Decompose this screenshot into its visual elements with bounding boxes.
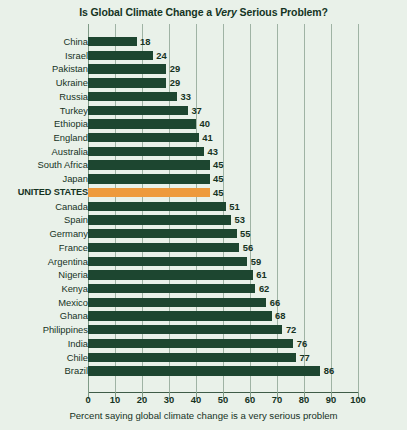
bar-category-label: Canada (0, 200, 88, 214)
bar[interactable] (88, 325, 282, 334)
bar-value-label: 43 (208, 145, 218, 159)
bar-category-label: Ukraine (0, 76, 88, 90)
x-tick-label: 70 (272, 394, 282, 405)
bar-category-label: India (0, 337, 88, 351)
bar-value-label: 77 (299, 351, 309, 365)
bar-row[interactable]: France56 (0, 241, 407, 255)
bar[interactable] (88, 229, 237, 238)
bar-category-label: China (0, 35, 88, 49)
bar[interactable] (88, 37, 137, 46)
chart-title-emphasis: Very (215, 6, 237, 18)
bar-value-label: 66 (270, 296, 280, 310)
chart-title-after: Serious Problem? (237, 6, 328, 18)
bar-row[interactable]: Mexico66 (0, 296, 407, 310)
bar[interactable] (88, 78, 166, 87)
bar-row[interactable]: Ethiopia40 (0, 117, 407, 131)
bar[interactable] (88, 119, 196, 128)
bar-category-label: South Africa (0, 158, 88, 172)
bar-category-label: Israel (0, 49, 88, 63)
bar[interactable] (88, 311, 272, 320)
bar[interactable] (88, 64, 166, 73)
bar-category-label: Pakistan (0, 62, 88, 76)
bar[interactable] (88, 92, 177, 101)
bar-category-label: Australia (0, 145, 88, 159)
bar[interactable] (88, 188, 210, 197)
bar[interactable] (88, 366, 320, 375)
bar-value-label: 33 (181, 90, 191, 104)
x-tick-label: 100 (350, 394, 366, 405)
bar-row[interactable]: Spain53 (0, 213, 407, 227)
bar-value-label: 45 (213, 186, 223, 200)
bar[interactable] (88, 174, 210, 183)
bar-row-highlighted[interactable]: UNITED STATES45 (0, 186, 407, 200)
bar[interactable] (88, 270, 253, 279)
bar-row[interactable]: Australia43 (0, 145, 407, 159)
bar-row[interactable]: Nigeria61 (0, 268, 407, 282)
bar-value-label: 45 (213, 158, 223, 172)
bar-category-label: Philippines (0, 323, 88, 337)
x-tick-label: 30 (164, 394, 174, 405)
bar-value-label: 40 (200, 117, 210, 131)
bar[interactable] (88, 257, 247, 266)
bar[interactable] (88, 160, 210, 169)
bar-row[interactable]: Israel24 (0, 49, 407, 63)
bar[interactable] (88, 106, 188, 115)
bar-row[interactable]: China18 (0, 35, 407, 49)
bar-value-label: 24 (156, 49, 166, 63)
bar-value-label: 59 (251, 255, 261, 269)
x-axis-label: Percent saying global climate change is … (0, 410, 407, 421)
bar-category-label: Russia (0, 90, 88, 104)
bar[interactable] (88, 243, 239, 252)
bar-row[interactable]: India76 (0, 337, 407, 351)
bar[interactable] (88, 339, 293, 348)
x-tick-label: 80 (299, 394, 309, 405)
bar-value-label: 18 (140, 35, 150, 49)
bar-value-label: 56 (243, 241, 253, 255)
bar-value-label: 86 (324, 364, 334, 378)
bar[interactable] (88, 298, 266, 307)
bar-category-label: Nigeria (0, 268, 88, 282)
bar-row[interactable]: Chile77 (0, 351, 407, 365)
bar-category-label: Ethiopia (0, 117, 88, 131)
bar-category-label: Turkey (0, 104, 88, 118)
x-tick-label: 0 (85, 394, 90, 405)
bar[interactable] (88, 353, 296, 362)
bar[interactable] (88, 284, 255, 293)
x-tick-label: 90 (326, 394, 336, 405)
bar-row[interactable]: England41 (0, 131, 407, 145)
bar-row[interactable]: Turkey37 (0, 104, 407, 118)
bar-row[interactable]: South Africa45 (0, 158, 407, 172)
bar-value-label: 76 (297, 337, 307, 351)
bar-value-label: 45 (213, 172, 223, 186)
bar[interactable] (88, 215, 231, 224)
bar-rows: China18Israel24Pakistan29Ukraine29Russia… (0, 35, 407, 378)
bar-row[interactable]: Kenya62 (0, 282, 407, 296)
bar-category-label: UNITED STATES (0, 186, 88, 200)
bar-value-label: 41 (202, 131, 212, 145)
bar-value-label: 62 (259, 282, 269, 296)
chart-title-before: Is Global Climate Change a (79, 6, 215, 18)
bar[interactable] (88, 202, 226, 211)
bar-row[interactable]: Ukraine29 (0, 76, 407, 90)
x-tick-label: 40 (191, 394, 201, 405)
bar-row[interactable]: Philippines72 (0, 323, 407, 337)
bar-category-label: Japan (0, 172, 88, 186)
bar-row[interactable]: Ghana68 (0, 309, 407, 323)
bar-category-label: Ghana (0, 309, 88, 323)
bar-value-label: 55 (240, 227, 250, 241)
bar[interactable] (88, 147, 204, 156)
bar-row[interactable]: Russia33 (0, 90, 407, 104)
bar-category-label: Brazil (0, 364, 88, 378)
chart-title: Is Global Climate Change a Very Serious … (0, 6, 407, 18)
bar-row[interactable]: Japan45 (0, 172, 407, 186)
bar-row[interactable]: Germany55 (0, 227, 407, 241)
bar-category-label: Chile (0, 351, 88, 365)
bar-row[interactable]: Canada51 (0, 200, 407, 214)
bar-row[interactable]: Pakistan29 (0, 62, 407, 76)
bar-value-label: 68 (275, 309, 285, 323)
bar[interactable] (88, 133, 199, 142)
bar-value-label: 61 (256, 268, 266, 282)
bar-row[interactable]: Brazil86 (0, 364, 407, 378)
bar-row[interactable]: Argentina59 (0, 255, 407, 269)
bar[interactable] (88, 51, 153, 60)
